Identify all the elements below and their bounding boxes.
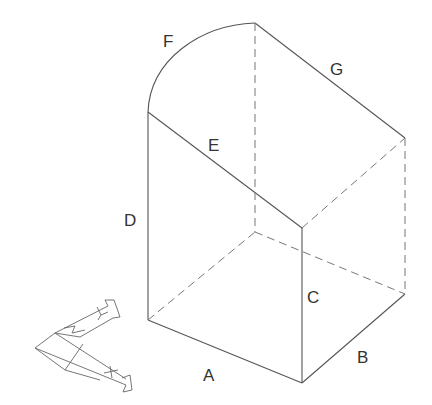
diagram-canvas: F G E D C B A (0, 0, 432, 405)
edge-g (255, 23, 405, 138)
edge-b (302, 294, 405, 383)
label-c: C (307, 289, 319, 306)
edge-a (148, 320, 302, 383)
label-a: A (203, 367, 214, 384)
hidden-edge-top-right (302, 138, 405, 228)
hidden-edge-bottom-left (148, 232, 255, 320)
label-e: E (208, 137, 219, 154)
label-b: B (357, 349, 368, 366)
isometric-solid (0, 0, 432, 405)
hidden-edge-bottom-back (255, 232, 405, 294)
label-g: G (330, 61, 343, 78)
label-f: F (163, 33, 173, 50)
ucs-icon (35, 300, 132, 392)
label-d: D (124, 212, 136, 229)
edge-e (148, 112, 302, 228)
